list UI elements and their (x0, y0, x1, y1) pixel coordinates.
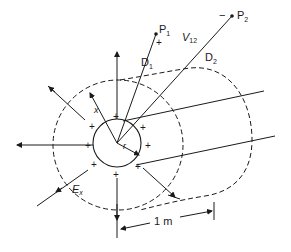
field-arrow-upleft-head (49, 87, 55, 92)
radius-line (117, 143, 139, 155)
length-dim-right (180, 211, 212, 217)
field-arrow-downright (143, 168, 175, 197)
length-dim-left (121, 223, 150, 229)
point-p2-polarity: − (219, 9, 225, 21)
conductor-bottom-edge (136, 136, 275, 165)
distance-d1-label: D1 (141, 56, 153, 70)
distance-d2-label: D2 (205, 51, 217, 65)
charge: + (113, 169, 119, 180)
voltage-label: V12 (182, 31, 197, 44)
charge: + (145, 140, 151, 151)
conductor-top-edge (123, 91, 264, 121)
field-arrow-downleft-head (56, 188, 62, 192)
point-p2-dot (230, 14, 234, 18)
charge: + (91, 159, 97, 170)
charge: + (85, 140, 91, 151)
charge: + (140, 122, 146, 133)
radius-label: r (123, 141, 127, 151)
charge: + (113, 111, 119, 122)
length-label: 1 m (154, 215, 172, 227)
distance-line-d2 (117, 16, 232, 143)
line-charge-field-diagram: + + + + + + + + P1 + P2 − V12 D1 D2 r x … (0, 0, 291, 252)
cylinder-back-outline (120, 68, 252, 210)
field-label: Ex (72, 183, 83, 196)
charge: + (89, 121, 95, 132)
field-arrow-downleft (37, 170, 88, 206)
point-p1-dot (154, 32, 158, 36)
point-p2-label: P2 (237, 9, 248, 23)
charge: + (135, 161, 141, 172)
point-p1-polarity: + (156, 37, 162, 48)
point-p1-label: P1 (159, 23, 170, 37)
distance-x-label: x (93, 105, 99, 115)
